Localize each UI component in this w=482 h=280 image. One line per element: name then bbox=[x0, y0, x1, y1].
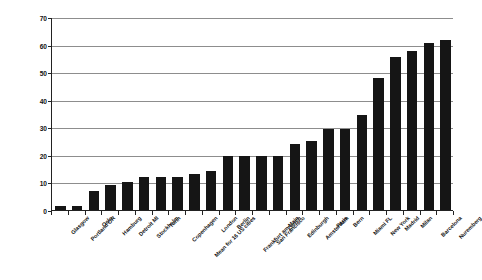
x-tick-mark bbox=[101, 211, 102, 215]
x-tick-mark bbox=[286, 211, 287, 215]
x-axis-label: Bern bbox=[352, 215, 365, 228]
bar bbox=[156, 177, 166, 210]
bar bbox=[105, 185, 115, 210]
bar bbox=[323, 129, 333, 210]
x-axis-label-text: Paris bbox=[335, 215, 349, 229]
x-tick-mark bbox=[51, 211, 52, 215]
x-axis-label-text: Copenhagen bbox=[190, 215, 218, 243]
bar bbox=[122, 182, 132, 210]
x-tick-mark bbox=[420, 211, 421, 215]
plot-area: 010203040506070 bbox=[51, 18, 453, 211]
y-tick-label: 50 bbox=[40, 70, 47, 77]
bar bbox=[172, 177, 182, 210]
x-tick-mark bbox=[219, 211, 220, 215]
y-tick-label: 20 bbox=[40, 152, 47, 159]
x-axis-labels: GlasgowPortland OROsloHamburgDetroit MIS… bbox=[51, 215, 453, 280]
bar bbox=[55, 206, 65, 210]
bar bbox=[206, 171, 216, 210]
bar bbox=[424, 43, 434, 210]
bar bbox=[223, 156, 233, 210]
x-axis-label-text: Turin bbox=[168, 215, 182, 229]
bar bbox=[290, 144, 300, 210]
bar bbox=[440, 40, 450, 210]
x-axis-label: Paris bbox=[335, 215, 349, 229]
x-axis-label-text: Bern bbox=[352, 215, 365, 228]
y-tick-label: 30 bbox=[40, 125, 47, 132]
x-tick-mark bbox=[185, 211, 186, 215]
y-tick-label: 60 bbox=[40, 42, 47, 49]
bar bbox=[72, 206, 82, 210]
x-tick-mark bbox=[319, 211, 320, 215]
bar bbox=[256, 156, 266, 210]
y-tick-label: 0 bbox=[43, 208, 47, 215]
x-tick-mark bbox=[302, 211, 303, 215]
bar bbox=[357, 115, 367, 210]
x-axis-label-text: Milan bbox=[419, 215, 433, 229]
x-tick-mark bbox=[202, 211, 203, 215]
bar bbox=[139, 177, 149, 210]
x-tick-mark bbox=[453, 211, 454, 215]
bars-layer bbox=[52, 18, 453, 210]
x-axis-label-text: Glasgow bbox=[70, 215, 90, 235]
x-axis-label: Copenhagen bbox=[190, 215, 218, 243]
x-tick-mark bbox=[168, 211, 169, 215]
x-tick-mark bbox=[235, 211, 236, 215]
x-tick-mark bbox=[68, 211, 69, 215]
bar bbox=[373, 78, 383, 210]
x-axis-label: Glasgow bbox=[70, 215, 90, 235]
bar bbox=[89, 191, 99, 210]
bar bbox=[306, 141, 316, 210]
x-tick-mark bbox=[386, 211, 387, 215]
y-tick-label: 40 bbox=[40, 97, 47, 104]
bar bbox=[407, 51, 417, 210]
x-tick-mark bbox=[336, 211, 337, 215]
x-tick-mark bbox=[369, 211, 370, 215]
x-tick-mark bbox=[403, 211, 404, 215]
x-tick-mark bbox=[118, 211, 119, 215]
x-tick-mark bbox=[353, 211, 354, 215]
x-tick-mark bbox=[135, 211, 136, 215]
y-tick-label: 70 bbox=[40, 15, 47, 22]
bar bbox=[239, 156, 249, 210]
bar bbox=[390, 57, 400, 210]
x-tick-mark bbox=[436, 211, 437, 215]
x-tick-mark bbox=[152, 211, 153, 215]
x-tick-mark bbox=[269, 211, 270, 215]
bar bbox=[273, 156, 283, 210]
bar bbox=[189, 174, 199, 210]
bar bbox=[340, 129, 350, 210]
x-axis-label: Turin bbox=[168, 215, 182, 229]
x-axis-label: Milan bbox=[419, 215, 433, 229]
y-tick-label: 10 bbox=[40, 180, 47, 187]
